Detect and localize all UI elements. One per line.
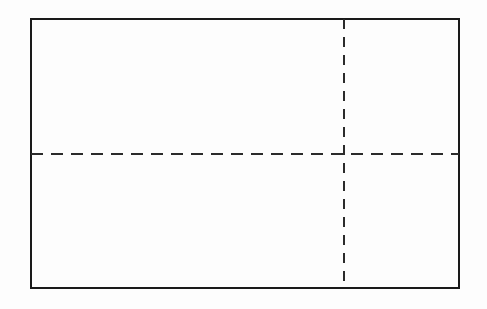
figure-canvas	[0, 0, 487, 309]
outer-rectangle	[30, 18, 460, 289]
